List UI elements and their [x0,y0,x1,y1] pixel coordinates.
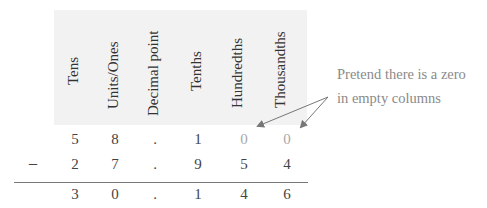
arrow-to-hundredths [258,97,328,126]
arrow-icon [0,0,487,208]
arrow-to-thousandths [301,97,328,127]
